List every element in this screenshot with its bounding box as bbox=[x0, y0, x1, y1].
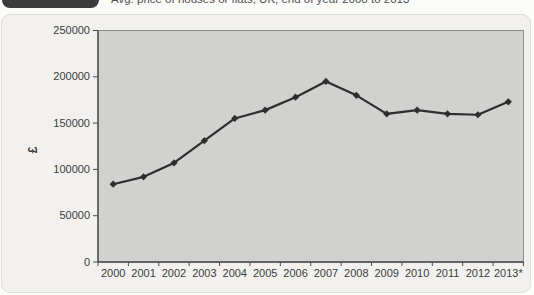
x-axis-tick-label: 2013* bbox=[494, 267, 523, 279]
x-axis-tick-label: 2000 bbox=[101, 267, 125, 279]
figure-container: Avg. price of houses or flats, UK, end o… bbox=[0, 0, 534, 295]
y-axis-tick-label: 150000 bbox=[53, 117, 90, 129]
x-axis-tick-label: 2008 bbox=[344, 267, 368, 279]
x-axis-tick-label: 2006 bbox=[283, 267, 307, 279]
x-axis-tick-label: 2007 bbox=[314, 267, 338, 279]
x-axis-tick-label: 2002 bbox=[162, 267, 186, 279]
plot-area bbox=[98, 31, 524, 263]
x-axis-tick-label: 2009 bbox=[374, 267, 398, 279]
line-chart: 0500001000001500002000002500002000200120… bbox=[0, 0, 534, 295]
y-axis-tick-label: 250000 bbox=[53, 24, 90, 36]
x-axis-tick-label: 2001 bbox=[131, 267, 155, 279]
y-axis-tick-label: 200000 bbox=[53, 70, 90, 82]
x-axis-tick-label: 2011 bbox=[436, 267, 460, 279]
y-axis-tick-label: 0 bbox=[84, 256, 90, 268]
y-axis-tick-label: 50000 bbox=[59, 209, 90, 221]
y-axis-tick-label: 100000 bbox=[53, 163, 90, 175]
y-axis-title: £ bbox=[26, 146, 40, 153]
x-axis-tick-label: 2003 bbox=[192, 267, 216, 279]
x-axis-tick-label: 2005 bbox=[253, 267, 277, 279]
x-axis-tick-label: 2004 bbox=[223, 267, 247, 279]
x-axis-tick-label: 2012 bbox=[466, 267, 490, 279]
x-axis-tick-label: 2010 bbox=[405, 267, 429, 279]
